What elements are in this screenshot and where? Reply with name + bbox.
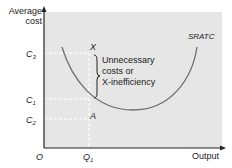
- x-axis-label: Output: [192, 151, 219, 161]
- y-axis-arrow-icon: [42, 6, 47, 12]
- x-axis-arrow-icon: [220, 146, 226, 151]
- brace-icon: [94, 55, 100, 98]
- sratc-label: SRATC: [188, 32, 215, 42]
- point-a-label: A: [90, 111, 96, 121]
- tick-c1: C1: [26, 95, 36, 108]
- tick-c3: C3: [26, 49, 36, 62]
- point-x-label: X: [90, 42, 96, 52]
- tick-q1: Q1: [83, 152, 93, 165]
- tick-c2: C2: [26, 115, 36, 128]
- x-inefficiency-annotation: Unnecessary costs or X-inefficiency: [102, 55, 155, 88]
- y-axis-label: Average cost: [4, 6, 42, 26]
- origin-label: O: [36, 152, 43, 162]
